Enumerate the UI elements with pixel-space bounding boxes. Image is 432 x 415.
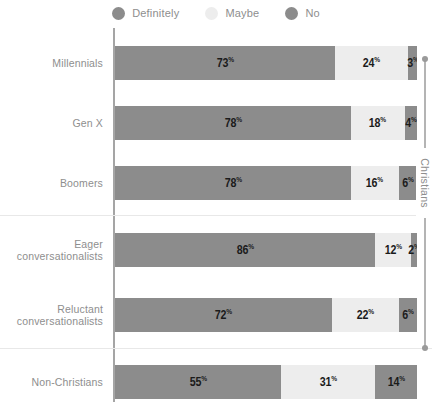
bar-segment-definitely: 78% <box>115 106 351 140</box>
circle-swatch-icon <box>205 7 218 20</box>
bracket-endpoint-dot-icon <box>422 56 428 62</box>
row-label-line2: conversationalists <box>0 250 103 263</box>
legend-item-maybe: Maybe <box>205 7 259 20</box>
row-label: Gen X <box>0 117 103 130</box>
row-label-line1: Reluctant <box>0 303 103 316</box>
group-divider <box>0 215 432 216</box>
bar-segment-no: 3% <box>408 46 417 80</box>
bar-segment-maybe: 31% <box>281 365 375 399</box>
chart-row: Millennials 73% 24% 3% <box>0 46 432 80</box>
segment-value: 4% <box>405 115 416 130</box>
row-label-line1: Boomers <box>0 177 103 190</box>
group-divider <box>0 348 432 349</box>
stacked-bar: 55% 31% 14% <box>115 365 417 399</box>
bar-segment-no: 2% <box>411 233 417 267</box>
christians-group-bracket: Christians <box>418 56 432 351</box>
row-label-line1: Millennials <box>0 57 103 70</box>
chart-row: Gen X 78% 18% 4% <box>0 106 432 140</box>
segment-value: 72% <box>215 307 232 322</box>
segment-value: 78% <box>224 115 241 130</box>
chart-plot-area: Millennials 73% 24% 3% Gen X 78% 18% <box>0 26 432 415</box>
segment-value: 3% <box>407 55 417 70</box>
chart-row: Reluctant conversationalists 72% 22% 6% <box>0 298 432 332</box>
row-label: Eager conversationalists <box>0 238 103 263</box>
segment-value: 73% <box>217 55 234 70</box>
circle-swatch-icon <box>112 7 125 20</box>
bracket-endpoint-dot-icon <box>422 345 428 351</box>
row-label: Reluctant conversationalists <box>0 303 103 328</box>
bar-segment-definitely: 73% <box>115 46 335 80</box>
chart-row: Boomers 78% 16% 6% <box>0 166 432 200</box>
row-label-line1: Eager <box>0 238 103 251</box>
row-label-line2: conversationalists <box>0 315 103 328</box>
segment-value: 86% <box>236 242 253 257</box>
bar-segment-maybe: 22% <box>332 298 398 332</box>
segment-value: 55% <box>190 374 207 389</box>
bar-segment-definitely: 86% <box>115 233 375 267</box>
bar-segment-definitely: 55% <box>115 365 281 399</box>
stacked-bar: 78% 16% 6% <box>115 166 417 200</box>
segment-value: 16% <box>366 175 383 190</box>
legend-label-maybe: Maybe <box>225 7 259 19</box>
segment-value: 18% <box>369 115 386 130</box>
legend-label-no: No <box>305 7 319 19</box>
segment-value: 78% <box>224 175 241 190</box>
segment-value: 14% <box>387 374 404 389</box>
stacked-bar: 86% 12% 2% <box>115 233 417 267</box>
segment-value: 12% <box>384 242 401 257</box>
row-label-line1: Non-Christians <box>0 376 103 389</box>
legend-item-definitely: Definitely <box>112 7 179 20</box>
bar-segment-no: 6% <box>399 298 417 332</box>
bar-segment-no: 6% <box>399 166 417 200</box>
bar-segment-maybe: 18% <box>351 106 405 140</box>
segment-value: 31% <box>319 374 336 389</box>
bracket-label: Christians <box>416 148 432 218</box>
segment-value: 6% <box>402 307 413 322</box>
bar-segment-no: 4% <box>405 106 417 140</box>
bar-segment-maybe: 12% <box>375 233 411 267</box>
segment-value: 2% <box>408 242 417 257</box>
chart-legend: Definitely Maybe No <box>0 0 432 26</box>
stacked-bar: 78% 18% 4% <box>115 106 417 140</box>
chart-row: Eager conversationalists 86% 12% 2% <box>0 233 432 267</box>
stacked-bar: 73% 24% 3% <box>115 46 417 80</box>
row-label-line1: Gen X <box>0 117 103 130</box>
circle-swatch-icon <box>285 7 298 20</box>
stacked-bar: 72% 22% 6% <box>115 298 417 332</box>
legend-label-definitely: Definitely <box>132 7 179 19</box>
segment-value: 6% <box>402 175 413 190</box>
chart-row: Non-Christians 55% 31% 14% <box>0 365 432 399</box>
bar-segment-definitely: 78% <box>115 166 351 200</box>
bar-segment-maybe: 16% <box>351 166 399 200</box>
row-label: Non-Christians <box>0 376 103 389</box>
segment-value: 24% <box>363 55 380 70</box>
row-label: Millennials <box>0 57 103 70</box>
row-label: Boomers <box>0 177 103 190</box>
bar-segment-definitely: 72% <box>115 298 332 332</box>
bar-segment-no: 14% <box>375 365 417 399</box>
legend-item-no: No <box>285 7 319 20</box>
bar-segment-maybe: 24% <box>335 46 407 80</box>
segment-value: 22% <box>357 307 374 322</box>
